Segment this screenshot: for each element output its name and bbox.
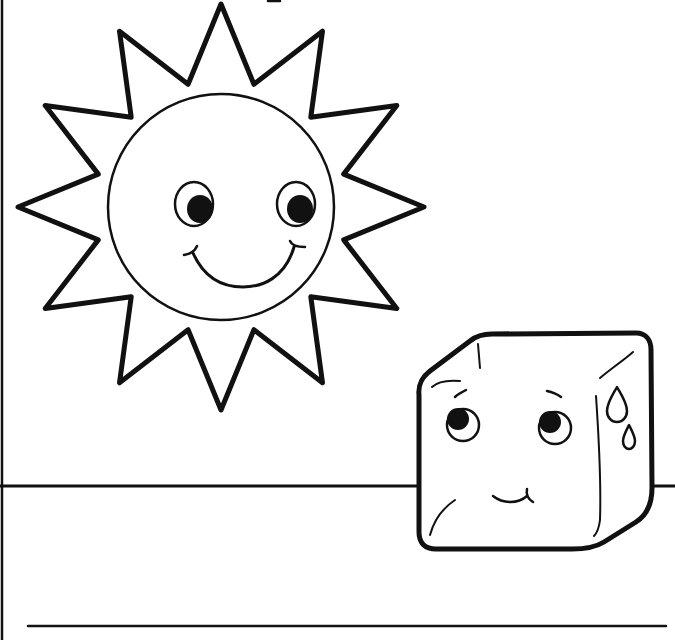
ice-cube (419, 333, 652, 549)
ice-cube-mouth (493, 496, 527, 502)
ice-cube-edge-right (594, 396, 600, 536)
ice-cube-edge-top (478, 344, 480, 368)
ice-cube-left-eye (447, 408, 479, 441)
sun-smile-dimple-left (184, 246, 197, 255)
sun-left-eye (175, 182, 213, 226)
ice-cube-left-eyebrow (455, 390, 466, 397)
sun (18, 4, 424, 410)
illustration-canvas (0, 0, 675, 640)
sun-right-eye (277, 182, 315, 226)
pupil (287, 195, 313, 223)
pupil (187, 195, 213, 223)
pupil (539, 411, 561, 433)
sun-smile (193, 247, 294, 287)
ice-cube-edge-top-right (600, 352, 633, 378)
ice-cube-edge-left (432, 381, 460, 387)
sweat-drop-large-icon (607, 387, 627, 422)
coloring-page: Black and white line drawing of a smilin… (0, 0, 675, 640)
ice-cube-edge-bottom-left (430, 500, 455, 535)
sun-smile-dimple-right (290, 241, 305, 247)
pupil (447, 408, 469, 430)
ice-cube-right-eye (539, 411, 571, 444)
ice-cube-right-eyebrow (547, 391, 561, 397)
sun-rays (18, 4, 424, 410)
sweat-drop-small-icon (623, 425, 635, 449)
ice-cube-mouth-tick (527, 489, 533, 502)
